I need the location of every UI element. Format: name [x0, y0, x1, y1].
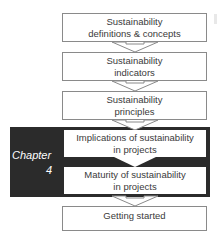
step-label: Implications of sustainability — [76, 132, 194, 144]
chapter-word: Chapter — [12, 148, 56, 163]
step-label: Sustainability — [107, 16, 163, 28]
chapter-label: Chapter 4 — [12, 148, 56, 178]
step-label: definitions & concepts — [88, 28, 180, 40]
step-label: Sustainability — [107, 94, 163, 106]
step-label: Maturity of sustainability — [84, 169, 185, 181]
step-label: Getting started — [103, 210, 165, 222]
step-getting-started: Getting started — [62, 206, 207, 231]
chapter-number: 4 — [12, 163, 56, 178]
step-label: in projects — [113, 144, 156, 156]
edge-artifact — [214, 14, 217, 24]
step-label: in projects — [113, 181, 156, 193]
step-sustainability-principles: Sustainability principles — [62, 91, 207, 120]
step-label: indicators — [114, 67, 155, 79]
step-implications-of-sustainability: Implications of sustainability in projec… — [64, 130, 206, 157]
step-sustainability-definitions: Sustainability definitions & concepts — [62, 13, 207, 42]
step-label: principles — [114, 106, 154, 118]
step-label: Sustainability — [107, 55, 163, 67]
step-maturity-of-sustainability: Maturity of sustainability in projects — [64, 167, 206, 194]
step-sustainability-indicators: Sustainability indicators — [62, 52, 207, 81]
